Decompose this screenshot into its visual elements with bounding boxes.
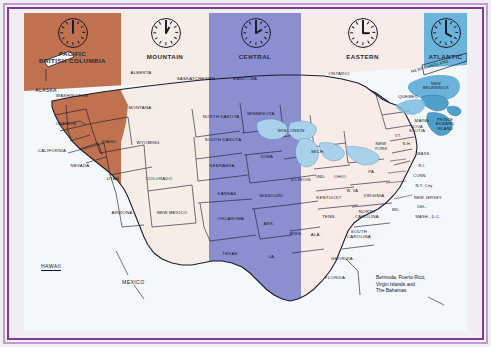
- clock-tick: [155, 37, 158, 40]
- clock-tick: [62, 37, 65, 40]
- zone-label-eastern: EASTERN: [301, 53, 424, 60]
- clock-tick: [264, 37, 267, 40]
- zone-label-pacific-line1: PACIFIC: [24, 50, 121, 57]
- clock-tick: [77, 41, 80, 44]
- clock-mountain: [151, 18, 181, 48]
- clock-tick: [170, 21, 173, 24]
- clock-tick: [170, 41, 173, 44]
- clock-tick: [176, 32, 179, 33]
- clock-tick: [454, 37, 457, 40]
- clock-tick: [81, 37, 84, 40]
- clock-tick: [72, 42, 73, 45]
- clock-tick: [445, 42, 446, 45]
- clock-tick: [260, 41, 263, 44]
- region-label-mexico: MEXICO: [122, 279, 145, 285]
- clock-central-center: [255, 32, 257, 34]
- clock-tick: [356, 41, 359, 44]
- clock-tick: [159, 41, 162, 44]
- clock-tick: [153, 32, 156, 33]
- clock-tick: [245, 37, 248, 40]
- clock-tick: [264, 26, 267, 29]
- clock-tick: [450, 21, 453, 24]
- clock-tick: [456, 32, 459, 33]
- clock-tick: [439, 41, 442, 44]
- clock-tick: [454, 26, 457, 29]
- clock-tick: [255, 20, 256, 23]
- clock-eastern-center: [362, 32, 364, 34]
- region-label-hawaii: HAWAII: [41, 263, 61, 271]
- zone-label-atlantic: ATLANTIC: [424, 53, 467, 60]
- clock-tick: [352, 26, 355, 29]
- clock-pacific: [58, 18, 88, 48]
- clock-eastern-hour-hand: [363, 32, 370, 34]
- clock-tick: [362, 42, 363, 45]
- clock-tick: [243, 32, 246, 33]
- clock-tick: [367, 21, 370, 24]
- clock-tick: [266, 32, 269, 33]
- clock-tick: [362, 20, 363, 23]
- clock-tick: [66, 41, 69, 44]
- clock-tick: [245, 26, 248, 29]
- clock-tick: [159, 21, 162, 24]
- clock-tick: [83, 32, 86, 33]
- clock-tick: [356, 21, 359, 24]
- clock-atlantic: [431, 18, 461, 48]
- clock-tick: [72, 20, 73, 23]
- annotation-bermuda-caribbean: Bermuda, Puerto Rico, Virgin Islands and…: [376, 275, 425, 295]
- clock-tick: [165, 42, 166, 45]
- clock-tick: [249, 41, 252, 44]
- clock-tick: [77, 21, 80, 24]
- clock-tick: [367, 41, 370, 44]
- map-canvas: PACIFIC BRITISH COLUMBIA MOUNTAIN CENTRA…: [24, 13, 467, 331]
- clock-eastern: [348, 18, 378, 48]
- map-frame: PACIFIC BRITISH COLUMBIA MOUNTAIN CENTRA…: [0, 0, 491, 347]
- region-label-alaska: ALASKA: [35, 87, 57, 93]
- clock-tick: [60, 32, 63, 33]
- clock-tick: [445, 20, 446, 23]
- clock-tick: [433, 32, 436, 33]
- clock-tick: [174, 37, 177, 40]
- clock-pacific-center: [72, 32, 74, 34]
- clock-tick: [260, 21, 263, 24]
- clock-tick: [435, 26, 438, 29]
- clock-tick: [249, 21, 252, 24]
- clock-tick: [165, 20, 166, 23]
- clock-tick: [66, 21, 69, 24]
- clock-tick: [371, 37, 374, 40]
- zone-label-mountain: MOUNTAIN: [121, 53, 209, 60]
- clock-tick: [439, 21, 442, 24]
- clock-tick: [350, 32, 353, 33]
- clock-tick: [174, 26, 177, 29]
- clock-central: [241, 18, 271, 48]
- zone-label-pacific-line2: BRITISH COLUMBIA: [24, 57, 121, 64]
- clock-tick: [352, 37, 355, 40]
- clock-tick: [155, 26, 158, 29]
- clock-tick: [81, 26, 84, 29]
- clock-tick: [373, 32, 376, 33]
- clock-mountain-center: [165, 32, 167, 34]
- zone-label-central: CENTRAL: [209, 53, 301, 60]
- clock-tick: [435, 37, 438, 40]
- clock-tick: [62, 26, 65, 29]
- clock-tick: [371, 26, 374, 29]
- clock-tick: [255, 42, 256, 45]
- zone-label-pacific: PACIFIC BRITISH COLUMBIA: [24, 50, 121, 64]
- clock-tick: [450, 41, 453, 44]
